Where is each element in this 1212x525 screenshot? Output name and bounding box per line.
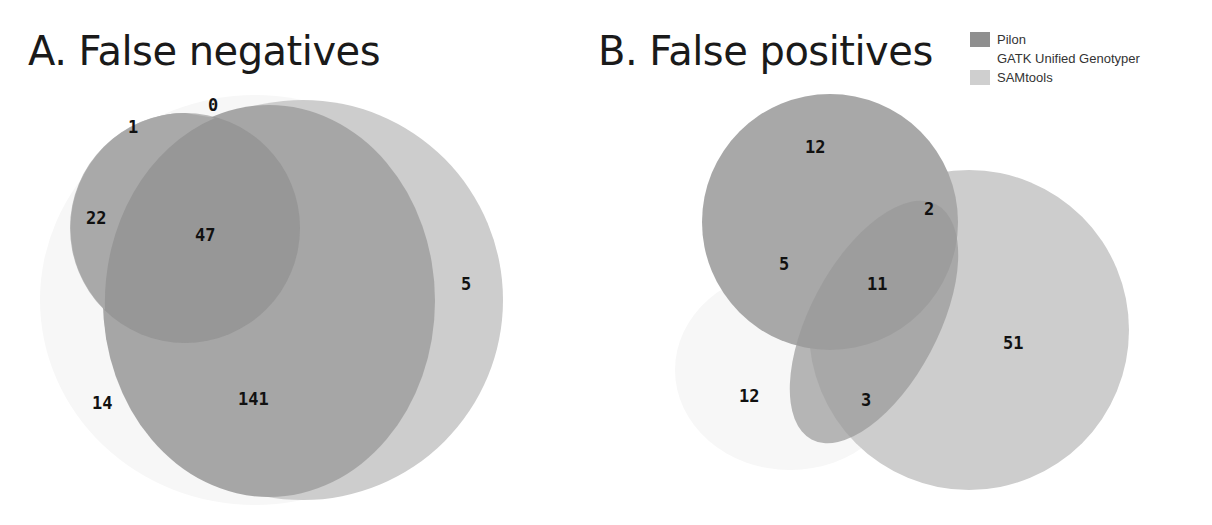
region-label: 11 <box>867 274 887 294</box>
venn-diagrams: 1 0 22 47 14 141 5 12 2 5 11 12 3 51 <box>0 0 1212 525</box>
region-label: 3 <box>861 390 871 410</box>
region-label: 1 <box>128 117 138 137</box>
region-label: 51 <box>1003 333 1023 353</box>
venn-b: 12 2 5 11 12 3 51 <box>675 94 1129 490</box>
region-label: 5 <box>779 254 789 274</box>
region-label: 0 <box>208 95 218 115</box>
venn-a: 1 0 22 47 14 141 5 <box>40 95 503 505</box>
region-label: 12 <box>805 137 825 157</box>
region-label: 47 <box>195 225 215 245</box>
region-label: 5 <box>461 274 471 294</box>
region-label: 22 <box>86 208 106 228</box>
region-label: 141 <box>238 389 269 409</box>
region-label: 14 <box>92 393 112 413</box>
region-label: 2 <box>924 199 934 219</box>
region-label: 12 <box>739 386 759 406</box>
